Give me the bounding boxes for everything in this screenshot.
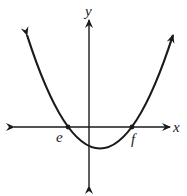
x-axis-label: x	[172, 119, 180, 135]
root-label-e: e	[56, 129, 63, 145]
root-point-f	[130, 125, 135, 130]
parabola-graph: y x e f	[0, 0, 187, 196]
root-label-f: f	[131, 131, 137, 147]
parabola-curve	[27, 35, 173, 149]
y-axis-label: y	[83, 3, 92, 19]
root-point-e	[66, 125, 71, 130]
